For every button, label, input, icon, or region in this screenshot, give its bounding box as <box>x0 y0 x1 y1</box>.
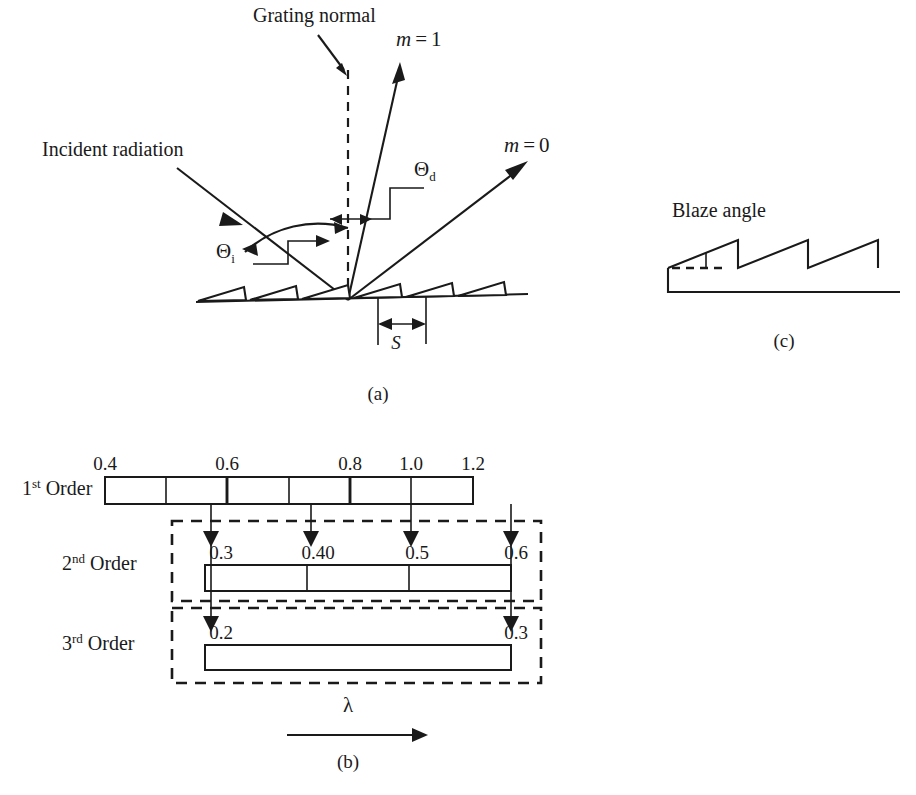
grating-normal-leader-arrow <box>318 35 347 76</box>
order-row-1-label: 1stOrder <box>22 476 93 499</box>
order-3-bar <box>205 645 511 670</box>
order-row-3-number: 3 <box>62 632 72 654</box>
incident-radiation-ray <box>177 168 348 300</box>
theta-i-arc-arrowhead-left <box>242 243 258 256</box>
wavelength-axis-arrow <box>287 728 428 742</box>
order-0-value: 0 <box>539 133 550 157</box>
order-row-2-word: Order <box>90 552 137 574</box>
order-row-1-suffix: st <box>32 476 41 491</box>
theta-i-subscript: i <box>231 251 235 266</box>
figure-canvas: Grating normal m=1 m=0 <box>0 0 916 795</box>
order-row-3-word: Order <box>88 632 135 654</box>
panel-c: Blaze angle (c) <box>668 199 900 352</box>
order-2-bar <box>205 565 511 591</box>
grating-spacing-dimension <box>378 297 426 345</box>
theta-d-leader <box>372 188 424 219</box>
theta-i-arc <box>245 224 348 252</box>
order-2-tick-label-0: 0.3 <box>209 542 233 563</box>
order-0-equals: = <box>523 133 535 157</box>
panel-a: Grating normal m=1 m=0 <box>42 4 550 405</box>
order-2-tick-label-2: 0.5 <box>405 542 429 563</box>
order-1-tick-label-3: 1.0 <box>399 453 423 474</box>
order-1-label: m=1 <box>396 27 442 51</box>
order-1-tick-label-1: 0.6 <box>215 453 239 474</box>
spacing-label: S <box>391 332 401 353</box>
order-1-tick-labels: 0.4 0.6 0.8 1.0 1.2 <box>93 453 485 474</box>
order-3-tick-labels: 0.2 0.3 <box>209 622 528 643</box>
order-1-tick-label-0: 0.4 <box>93 453 117 474</box>
order-1-ray <box>348 62 405 300</box>
order-1-value: 1 <box>431 27 442 51</box>
order-1-equals: = <box>415 27 427 51</box>
order-2-tick-label-1: 0.40 <box>301 542 334 563</box>
grating-figure: Grating normal m=1 m=0 <box>0 0 916 795</box>
panel-b-caption: (b) <box>337 751 359 773</box>
order-row-3-suffix: rd <box>72 631 83 646</box>
order-0-label: m=0 <box>504 133 550 157</box>
order-row-1-word: Order <box>46 477 93 499</box>
panel-a-caption: (a) <box>367 383 388 405</box>
order-row-2-label: 2ndOrder <box>62 551 137 574</box>
incident-radiation-label: Incident radiation <box>42 138 184 160</box>
order-2-tick-labels: 0.3 0.40 0.5 0.6 <box>209 542 528 563</box>
order-1-tick-label-2: 0.8 <box>338 453 362 474</box>
order-1-tick-label-4: 1.2 <box>461 453 485 474</box>
theta-d-label: Θd <box>414 157 436 184</box>
theta-i-label: Θi <box>216 239 235 266</box>
grating-normal-label: Grating normal <box>253 4 376 27</box>
theta-i-leader-arrowhead <box>316 235 330 247</box>
wavelength-axis-label: λ <box>343 693 354 717</box>
order-1-variable: m <box>396 27 411 51</box>
blaze-angle-label: Blaze angle <box>672 199 766 222</box>
theta-d-subscript: d <box>429 169 436 184</box>
order-row-1-number: 1 <box>22 477 32 499</box>
blaze-base-plate <box>668 268 900 292</box>
order-0-variable: m <box>504 133 519 157</box>
panel-b: 1stOrder 0.4 0.6 0.8 1.0 1.2 2ndOr <box>22 453 541 773</box>
order-2-tick-label-3: 0.6 <box>504 542 528 563</box>
theta-i-symbol: Θ <box>216 239 231 263</box>
order-row-3-label: 3rdOrder <box>62 631 135 654</box>
panel-c-caption: (c) <box>773 330 794 352</box>
theta-d-symbol: Θ <box>414 157 429 181</box>
order-row-2-suffix: nd <box>72 551 86 566</box>
blaze-sawtooth-profile <box>668 240 878 268</box>
order-row-2-number: 2 <box>62 552 72 574</box>
